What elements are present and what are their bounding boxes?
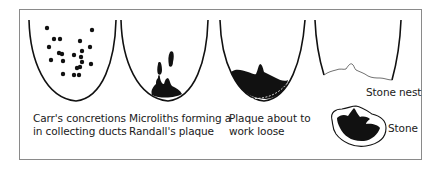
microlith-column-1 xyxy=(157,62,162,75)
stone-core xyxy=(337,108,380,141)
collecting-duct-2 xyxy=(121,20,208,101)
loosening-plaque xyxy=(231,64,288,99)
label-line: Microliths forming a xyxy=(129,112,231,125)
label-line: in collecting ducts xyxy=(33,125,127,138)
kidney-stone-formation-diagram xyxy=(0,0,443,170)
stone-nest-duct xyxy=(315,20,401,80)
label-line: work loose xyxy=(229,125,310,138)
label-line: Carr's concretions xyxy=(33,112,127,125)
label-line: Plaque about to xyxy=(229,112,310,125)
label-carrs-concretions: Carr's concretions in collecting ducts xyxy=(33,112,127,138)
collecting-duct-3 xyxy=(220,20,305,101)
label-microliths: Microliths forming a Randall's plaque xyxy=(129,112,231,138)
randalls-plaque xyxy=(151,75,182,98)
collecting-duct-1 xyxy=(29,20,116,101)
label-line: Randall's plaque xyxy=(129,125,231,138)
label-line: Stone xyxy=(388,122,418,135)
concretion-dots xyxy=(45,26,94,77)
stone-icon xyxy=(332,106,386,146)
label-stone-nest: Stone nest xyxy=(366,86,421,99)
microlith-column-2 xyxy=(168,51,173,67)
label-plaque-loose: Plaque about to work loose xyxy=(229,112,310,138)
label-line: Stone nest xyxy=(366,86,421,99)
stone-nest-outline xyxy=(324,64,392,80)
label-stone: Stone xyxy=(388,122,418,135)
